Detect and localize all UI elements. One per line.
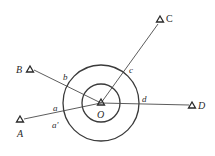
triangle-icon-C (157, 16, 164, 22)
label-station-D: D (197, 100, 206, 111)
survey-diagram: A B C D O a a' b c d (0, 0, 215, 156)
triangle-icon-A (17, 116, 24, 122)
label-a-prime: a' (52, 120, 60, 130)
triangle-icon-B (27, 66, 34, 72)
triangle-icon-D (189, 102, 196, 108)
label-station-C: C (166, 13, 173, 24)
label-d: d (142, 94, 147, 104)
label-c: c (129, 65, 133, 75)
line-OC (101, 24, 158, 103)
label-b: b (63, 72, 68, 82)
label-a: a (53, 103, 58, 113)
label-station-A: A (16, 128, 24, 139)
label-center-O: O (97, 109, 104, 120)
label-station-B: B (16, 64, 22, 75)
